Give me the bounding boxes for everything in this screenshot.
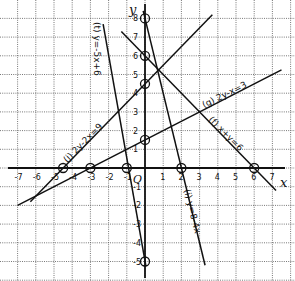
x-tick-label: 1 (160, 173, 165, 182)
plot-line (103, 24, 146, 266)
y-tick-label: 5 (133, 71, 138, 80)
y-tick-label: 6 (133, 52, 138, 61)
y-tick-label: -5 (133, 258, 141, 267)
y-tick-label: 1 (133, 145, 138, 154)
x-axis-label: x (280, 175, 288, 190)
y-tick-label: 2 (133, 127, 138, 136)
y-tick-label: -1 (133, 183, 141, 192)
x-tick-label: -2 (106, 173, 114, 182)
label-j: (j) 2y-2x=9 (61, 121, 104, 164)
x-tick-label: 5 (233, 173, 238, 182)
y-tick-label: -4 (133, 239, 141, 248)
x-tick-label: 6 (251, 173, 256, 182)
x-tick-label: -3 (87, 173, 95, 182)
x-tick-label: 7 (269, 173, 274, 182)
x-tick-label: 3 (197, 173, 202, 182)
coordinate-graph: x y O -7-6-5-4-3-2-1123456787654321-1-2-… (0, 0, 295, 281)
x-tick-label: -6 (33, 173, 41, 182)
y-tick-label: 8 (133, 14, 138, 23)
label-f: (f) x+y=6 (207, 114, 246, 153)
grid (0, 0, 295, 281)
x-tick-label: -7 (15, 173, 23, 182)
plot-line (30, 15, 212, 202)
label-t: (t) y=-5x+6 (92, 22, 102, 76)
label-g: (g) 2y-x=3 (200, 80, 248, 110)
x-tick-label: 4 (215, 173, 220, 182)
y-tick-label: 7 (133, 33, 138, 42)
y-tick-label: 3 (133, 108, 138, 117)
